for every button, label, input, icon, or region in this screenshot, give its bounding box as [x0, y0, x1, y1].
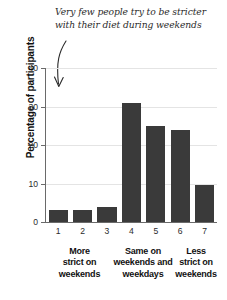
x-tick-label-4: 4: [119, 226, 143, 236]
bar-slot-6: [168, 68, 192, 222]
bar-slot-3: [95, 68, 119, 222]
y-axis-title: Percentage of participants: [25, 27, 36, 169]
y-tick-label-0: 0: [14, 218, 38, 227]
x-axis-line: [45, 222, 217, 223]
y-tick-mark-20: [41, 145, 45, 146]
bar-7[interactable]: [195, 185, 214, 222]
y-tick-label-10: 10: [14, 180, 38, 189]
bar-slot-7: [192, 68, 216, 222]
annotation-line-1: Very few people try to be stricter: [55, 6, 223, 19]
category-group-3-line-2: strict on: [166, 257, 226, 268]
bar-slot-5: [144, 68, 168, 222]
bar-slot-4: [119, 68, 143, 222]
bar-3[interactable]: [97, 207, 116, 222]
x-tick-label-6: 6: [168, 226, 192, 236]
bar-chart-figure: Very few people try to be stricter with …: [0, 0, 227, 300]
bar-slot-2: [70, 68, 94, 222]
chart-annotation: Very few people try to be stricter with …: [55, 6, 223, 31]
y-tick-mark-10: [41, 184, 45, 185]
y-tick-mark-30: [41, 107, 45, 108]
x-tick-label-1: 1: [46, 226, 70, 236]
category-group-3-line-1: Less: [166, 246, 226, 257]
bar-6[interactable]: [171, 130, 190, 222]
x-tick-label-3: 3: [95, 226, 119, 236]
x-tick-label-7: 7: [192, 226, 216, 236]
x-tick-label-2: 2: [70, 226, 94, 236]
bar-slot-1: [46, 68, 70, 222]
bar-1[interactable]: [49, 210, 68, 222]
bar-series: [46, 68, 217, 222]
bar-2[interactable]: [73, 210, 92, 222]
y-tick-mark-40: [41, 68, 45, 69]
annotation-line-2: with their diet during weekends: [55, 19, 223, 32]
x-tick-label-5: 5: [144, 226, 168, 236]
bar-4[interactable]: [122, 103, 141, 222]
category-group-less-strict: Less strict on weekends: [166, 246, 226, 280]
y-tick-mark-0: [41, 222, 45, 223]
bar-5[interactable]: [146, 126, 165, 222]
category-group-3-line-3: weekends: [166, 269, 226, 280]
